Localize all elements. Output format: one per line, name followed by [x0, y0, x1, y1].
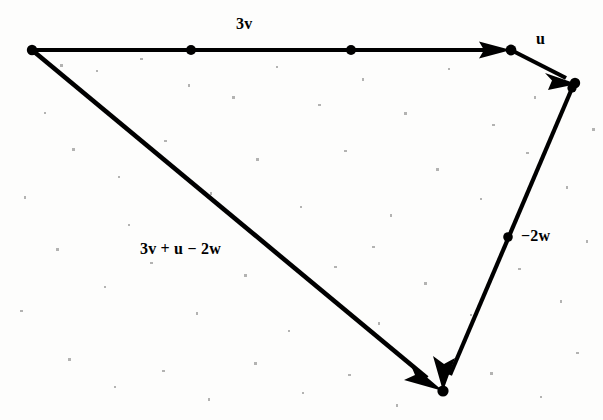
dot-tail-of-neg2w [567, 83, 576, 92]
vector-u-shaft [511, 50, 566, 78]
label-vector-u: u [536, 31, 545, 47]
vector-resultant [32, 50, 443, 391]
vector-resultant-shaft [32, 50, 427, 378]
vector-diagram-canvas [0, 0, 603, 420]
dot-terminus [437, 385, 448, 396]
dot-v-third-2 [346, 45, 356, 55]
vector-3v [32, 42, 511, 59]
label-vector-resultant: 3v + u − 2w [140, 241, 221, 257]
vector-node-dots [27, 45, 580, 397]
vector-neg-2w-shaft [450, 86, 573, 375]
label-vector-3v: 3v [236, 16, 252, 32]
dot-v-third-1 [186, 45, 196, 55]
dot-w-midpoint [503, 232, 513, 242]
dot-head-of-3v [506, 45, 517, 56]
vector-u [511, 50, 577, 90]
dot-origin [27, 45, 37, 55]
vector-diagram-figure: 3v u −2w 3v + u − 2w [0, 0, 603, 420]
vector-neg-2w [433, 86, 573, 391]
label-vector-neg-2w: −2w [521, 228, 550, 244]
